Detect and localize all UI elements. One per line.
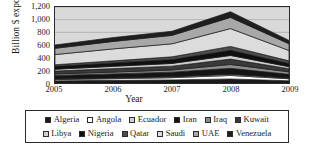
legend-row-2: LibyaNigeriaQatarSaudiUAEVenezuela bbox=[26, 127, 288, 141]
legend-swatch-icon bbox=[122, 131, 128, 137]
legend-label: Venezuela bbox=[236, 129, 271, 138]
legend-label: Nigeria bbox=[88, 129, 114, 138]
legend-item-iran[interactable]: Iran bbox=[174, 115, 196, 124]
stacked-area-svg bbox=[55, 7, 289, 83]
y-tick-label: 1,000 bbox=[31, 15, 50, 23]
legend-label: UAE bbox=[202, 129, 220, 138]
legend-label: Qatar bbox=[130, 129, 149, 138]
chart-figure: Billion $ export 02004006008001,0001,200… bbox=[0, 0, 314, 149]
y-tick-label: 200 bbox=[37, 67, 50, 75]
legend-swatch-icon bbox=[79, 131, 85, 137]
legend-label: Algeria bbox=[54, 115, 80, 124]
legend-row-1: AlgeriaAngolaEcuadorIranIraqKuwait bbox=[26, 113, 288, 127]
legend-label: Iraq bbox=[213, 115, 227, 124]
legend-item-algeria[interactable]: Algeria bbox=[45, 115, 79, 124]
legend-label: Angola bbox=[96, 115, 121, 124]
legend-item-angola[interactable]: Angola bbox=[87, 115, 121, 124]
x-tick-label: 2006 bbox=[93, 84, 133, 94]
x-axis-title: Year bbox=[0, 94, 268, 104]
legend-label: Iran bbox=[183, 115, 197, 124]
legend-item-nigeria[interactable]: Nigeria bbox=[79, 129, 113, 138]
legend-label: Ecuador bbox=[138, 115, 167, 124]
chart-legend: AlgeriaAngolaEcuadorIranIraqKuwait Libya… bbox=[25, 110, 289, 143]
y-axis-tick-labels: 02004006008001,0001,200 bbox=[18, 6, 50, 84]
legend-swatch-icon bbox=[193, 131, 199, 137]
y-tick-label: 600 bbox=[37, 41, 50, 49]
y-tick-label: 400 bbox=[37, 54, 50, 62]
legend-swatch-icon bbox=[157, 131, 163, 137]
legend-swatch-icon bbox=[227, 131, 233, 137]
legend-label: Kuwait bbox=[244, 115, 269, 124]
legend-swatch-icon bbox=[43, 131, 49, 137]
legend-item-qatar[interactable]: Qatar bbox=[122, 129, 150, 138]
legend-item-ecuador[interactable]: Ecuador bbox=[129, 115, 166, 124]
legend-label: Saudi bbox=[166, 129, 186, 138]
y-tick-label: 800 bbox=[37, 28, 50, 36]
legend-item-saudi[interactable]: Saudi bbox=[157, 129, 185, 138]
x-tick-label: 2005 bbox=[34, 84, 74, 94]
legend-item-venezuela[interactable]: Venezuela bbox=[227, 129, 271, 138]
legend-item-kuwait[interactable]: Kuwait bbox=[235, 115, 269, 124]
x-tick-label: 2007 bbox=[152, 84, 192, 94]
x-tick-label: 2009 bbox=[270, 84, 310, 94]
legend-swatch-icon bbox=[87, 117, 93, 123]
legend-swatch-icon bbox=[45, 117, 51, 123]
legend-swatch-icon bbox=[205, 117, 211, 123]
y-tick-label: 1,200 bbox=[31, 2, 50, 10]
legend-item-libya[interactable]: Libya bbox=[43, 129, 72, 138]
legend-swatch-icon bbox=[174, 117, 180, 123]
legend-swatch-icon bbox=[235, 117, 241, 123]
legend-item-iraq[interactable]: Iraq bbox=[205, 115, 227, 124]
x-tick-label: 2008 bbox=[211, 84, 251, 94]
legend-item-uae[interactable]: UAE bbox=[193, 129, 219, 138]
legend-swatch-icon bbox=[129, 117, 135, 123]
legend-label: Libya bbox=[51, 129, 71, 138]
plot-area bbox=[54, 6, 290, 84]
